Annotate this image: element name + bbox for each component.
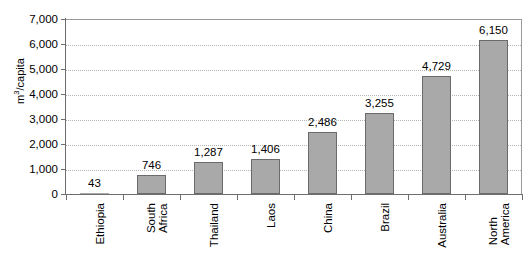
bar[interactable] [365,113,394,194]
x-axis-category-line: Thailand [209,203,221,247]
x-axis-category-line: China [323,203,335,233]
x-axis-category-line: America [499,203,511,245]
x-axis-tick-mark [408,195,409,200]
bar-value-label: 4,729 [422,60,451,72]
gridline [66,95,521,96]
x-axis-category-label: SouthAfrica [146,203,169,233]
plot-area [66,19,522,194]
y-axis-tick-mark [61,69,66,70]
x-axis-tick-mark [351,195,352,200]
y-axis-tick-mark [61,144,66,145]
y-axis-tick-mark [61,44,66,45]
bar-value-label: 1,287 [194,146,223,158]
x-axis-tick-mark [123,195,124,200]
bar-value-label: 6,150 [479,24,508,36]
bar[interactable] [194,162,223,194]
x-axis-category-line: North [488,203,500,245]
y-axis-tick-mark [61,169,66,170]
y-axis-tick-labels: 01,0002,0003,0004,0005,0006,0007,000 [12,0,58,259]
bar[interactable] [422,76,451,194]
bar[interactable] [251,159,280,194]
y-axis-tick-label: 6,000 [12,38,58,50]
bar-chart: m3/capita 01,0002,0003,0004,0005,0006,00… [0,0,529,259]
y-axis-tick-mark [61,94,66,95]
x-axis-category-label: China [323,203,335,233]
x-axis-category-label: Australia [437,203,449,248]
x-axis-category-label: NorthAmerica [488,203,511,245]
x-axis-tick-mark [237,195,238,200]
y-axis-tick-label: 1,000 [12,163,58,175]
gridline [66,45,521,46]
y-axis-tick-label: 3,000 [12,113,58,125]
y-axis-tick-label: 0 [12,188,58,200]
x-axis-tick-mark [180,195,181,200]
x-axis-category-line: South [146,203,158,233]
bar[interactable] [479,40,508,194]
y-axis-tick-mark [61,19,66,20]
bar-value-label: 43 [88,177,101,189]
y-axis-tick-mark [61,119,66,120]
gridline [66,70,521,71]
x-axis-tick-mark [294,195,295,200]
gridline [66,170,521,171]
x-axis-category-line: Africa [157,203,169,233]
x-axis-category-label: Thailand [209,203,221,247]
x-axis-category-line: Australia [437,203,449,248]
x-axis-category-label: Ethiopia [95,203,107,245]
bar-value-label: 2,486 [308,116,337,128]
x-axis-tick-mark [66,195,67,200]
gridline [66,120,521,121]
x-axis-tick-mark [522,195,523,200]
bar[interactable] [137,175,166,194]
y-axis-tick-label: 5,000 [12,63,58,75]
y-axis-tick-label: 4,000 [12,88,58,100]
bar-value-label: 3,255 [365,97,394,109]
bar-value-label: 746 [142,159,161,171]
x-axis-tick-mark [465,195,466,200]
x-axis-category-label: Brazil [380,203,392,232]
x-axis-category-line: Laos [266,203,278,228]
y-axis-tick-label: 2,000 [12,138,58,150]
gridline [66,145,521,146]
x-axis-category-line: Ethiopia [95,203,107,245]
bar-value-label: 1,406 [251,143,280,155]
y-axis-tick-label: 7,000 [12,13,58,25]
x-axis-category-label: Laos [266,203,278,228]
bar[interactable] [308,132,337,194]
x-axis-category-line: Brazil [380,203,392,232]
